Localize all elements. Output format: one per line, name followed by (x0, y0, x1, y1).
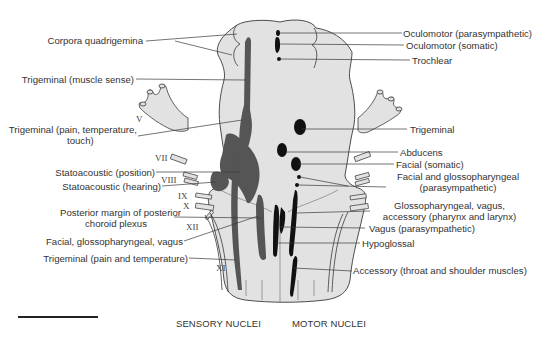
numeral-xii: XII (186, 222, 199, 232)
caption-motor-nuclei: MOTOR NUCLEI (292, 318, 366, 329)
label-trochlear: Trochlear (412, 55, 452, 66)
label-vagus-parasympathetic: Vagus (parasympathetic) (369, 223, 475, 234)
label-trigeminal-muscle-sense: Trigeminal (muscle sense) (22, 74, 134, 85)
label-statoacoustic-position: Statoacoustic (position) (55, 167, 155, 178)
label-trigeminal-pain-temp: Trigeminal (pain and temperature) (43, 253, 188, 264)
numeral-ix: IX (178, 191, 188, 201)
label-facial-glosso-parasympathetic: Facial and glossopharyngeal (parasympath… (388, 171, 528, 193)
label-trigeminal-pain-temp-touch: Trigeminal (pain, temperature, (9, 124, 137, 135)
label-oculomotor-parasympathetic: Oculomotor (parasympathetic) (403, 28, 532, 39)
footnote-rule (18, 316, 98, 318)
label-facial-glosso-parasym-line1: Facial and glossopharyngeal (388, 171, 528, 182)
label-posterior-margin-line1: Posterior margin of posterior (60, 207, 172, 218)
numeral-x: X (183, 201, 190, 211)
numeral-vii: VII (155, 153, 168, 163)
brainstem-diagram: Corpora quadrigemina Trigeminal (muscle … (0, 0, 535, 344)
trigeminal-root-left (139, 84, 188, 131)
label-corpora-quadrigemina: Corpora quadrigemina (48, 35, 143, 46)
abducens-nucleus (277, 143, 287, 157)
numeral-xi: XI (216, 263, 226, 273)
label-trigeminal-touch-cont: touch) (67, 135, 94, 146)
trigeminal-root-right (358, 90, 402, 133)
label-glosso-vagus-accessory: Glossopharyngeal, vagus, accessory (phar… (372, 200, 527, 222)
label-glosso-vagus-accessory-line1: Glossopharyngeal, vagus, (372, 200, 527, 211)
label-facial-glosso-parasym-line2: (parasympathetic) (388, 182, 528, 193)
label-hypoglossal: Hypoglossal (362, 238, 414, 249)
label-abducens: Abducens (400, 147, 443, 158)
trigeminal-motor-nucleus (294, 119, 306, 135)
oculomotor-parasympathetic-nucleus (276, 30, 280, 36)
label-facial-glosso-vagus: Facial, glossopharyngeal, vagus (46, 236, 183, 247)
caption-sensory-nuclei: SENSORY NUCLEI (176, 318, 261, 329)
label-posterior-margin-line2: choroid plexus (60, 218, 172, 229)
label-oculomotor-somatic: Oculomotor (somatic) (406, 40, 498, 51)
label-accessory-throat-shoulder: Accessory (throat and shoulder muscles) (353, 265, 527, 276)
label-posterior-margin: Posterior margin of posterior choroid pl… (60, 207, 172, 229)
numeral-v: V (136, 114, 143, 124)
numeral-viii: VIII (161, 175, 177, 185)
label-glosso-vagus-accessory-line2: accessory (pharynx and larynx) (372, 211, 527, 222)
label-statoacoustic-hearing: Statoacoustic (hearing) (62, 181, 161, 192)
label-trigeminal: Trigeminal (410, 124, 454, 135)
label-facial-somatic: Facial (somatic) (396, 159, 464, 170)
